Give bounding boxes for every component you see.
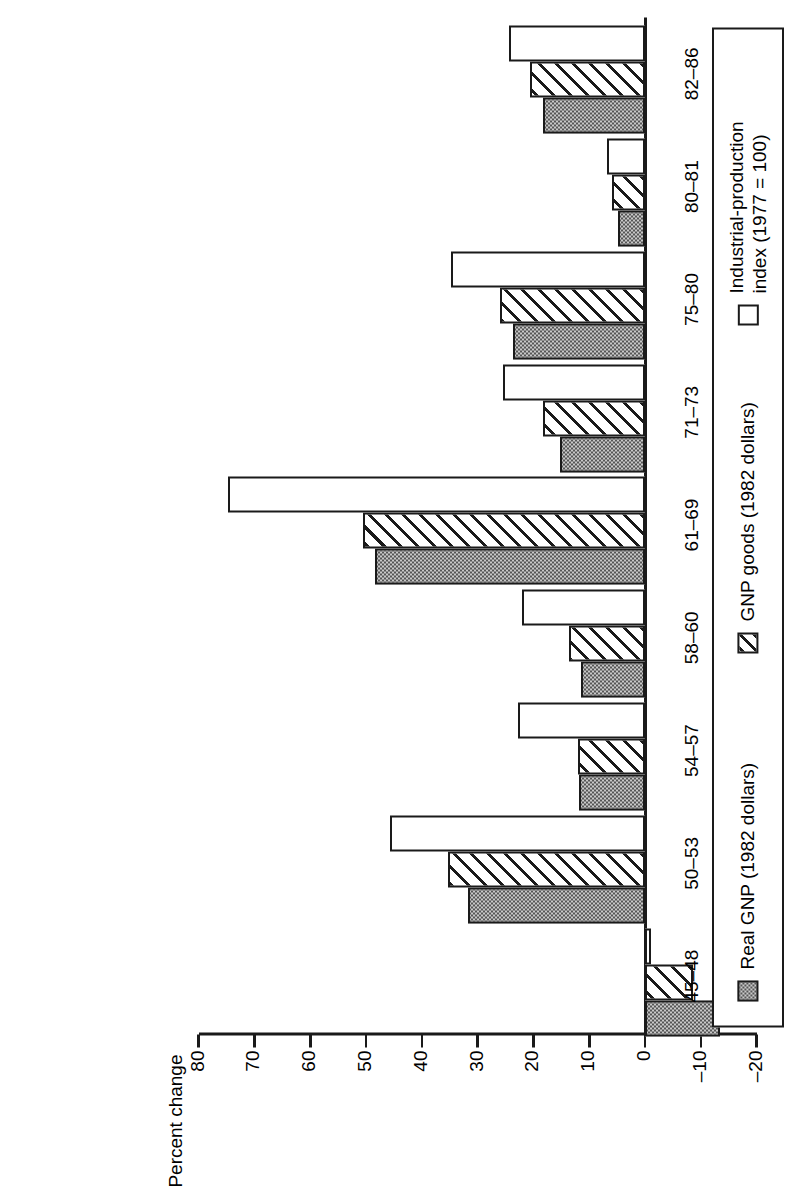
bar-80-81-series-0	[618, 210, 645, 246]
y-axis-tick-label: 10	[577, 1050, 599, 1110]
category-label: 61–69	[681, 498, 703, 551]
bar-82-86-series-2	[509, 25, 645, 61]
category-label: 50–53	[681, 836, 703, 889]
bar-58-60-series-0	[581, 661, 645, 697]
legend-label: Real GNP (1982 dollars)	[736, 762, 759, 969]
bar-58-60-series-2	[522, 589, 645, 625]
category-label: 58–60	[681, 611, 703, 664]
y-axis-tick	[755, 1034, 758, 1047]
legend-swatch-hatched	[737, 632, 758, 653]
bar-61-69-series-0	[375, 549, 645, 585]
y-axis-tick	[532, 1034, 535, 1047]
y-axis-tick-label: 40	[410, 1050, 432, 1110]
bar-61-69-series-1	[363, 513, 645, 549]
bar-71-73-series-2	[503, 364, 645, 400]
bar-50-53-series-0	[468, 887, 645, 923]
y-axis-tick-label: 70	[242, 1050, 264, 1110]
bar-54-57-series-1	[578, 738, 645, 774]
bar-61-69-series-2	[228, 477, 645, 513]
y-axis-tick	[421, 1034, 424, 1047]
legend-label: Industrial-production index (1977 = 100)	[725, 121, 771, 293]
legend-item-0[interactable]: Real GNP (1982 dollars)	[736, 762, 759, 1001]
bar-80-81-series-2	[607, 138, 645, 174]
bar-45-48-series-0	[645, 1000, 720, 1036]
bar-80-81-series-1	[612, 174, 645, 210]
y-axis-tick-label: 20	[521, 1050, 543, 1110]
bar-54-57-series-2	[518, 702, 645, 738]
legend-item-2[interactable]: Industrial-production index (1977 = 100)	[725, 121, 771, 325]
bar-71-73-series-0	[560, 436, 645, 472]
bar-71-73-series-1	[543, 400, 645, 436]
y-axis-tick	[588, 1034, 591, 1047]
y-axis-tick-label: –20	[745, 1050, 767, 1110]
bar-58-60-series-1	[569, 625, 645, 661]
y-axis-tick-label: 60	[298, 1050, 320, 1110]
y-axis-tick-label: –10	[689, 1050, 711, 1110]
y-axis-tick-label: 30	[466, 1050, 488, 1110]
y-axis-tick-label: 80	[187, 1050, 209, 1110]
y-axis-tick-label: 50	[354, 1050, 376, 1110]
category-label: 75–80	[681, 273, 703, 326]
bar-82-86-series-0	[543, 97, 645, 133]
y-axis-tick	[365, 1034, 368, 1047]
category-label: 54–57	[681, 724, 703, 777]
y-axis-tick-label: 0	[633, 1050, 655, 1110]
legend-swatch-dotted	[737, 980, 758, 1001]
bar-75-80-series-2	[451, 251, 645, 287]
y-axis-tick	[476, 1034, 479, 1047]
bar-75-80-series-0	[513, 323, 645, 359]
category-label: 82–86	[681, 47, 703, 100]
legend-swatch-white	[738, 304, 759, 325]
bar-45-48-series-2	[645, 928, 651, 964]
bar-54-57-series-0	[579, 774, 645, 810]
category-label: 45–48	[681, 949, 703, 1002]
bar-75-80-series-1	[500, 287, 645, 323]
category-label: 80–81	[681, 160, 703, 213]
bar-50-53-series-1	[448, 851, 645, 887]
bar-82-86-series-1	[530, 61, 645, 97]
y-axis-tick	[197, 1034, 200, 1047]
category-label: 71–73	[681, 385, 703, 438]
legend: Real GNP (1982 dollars)GNP goods (1982 d…	[712, 27, 784, 1027]
y-axis-tick	[253, 1034, 256, 1047]
legend-item-1[interactable]: GNP goods (1982 dollars)	[736, 402, 759, 653]
legend-label: GNP goods (1982 dollars)	[736, 402, 759, 621]
bar-50-53-series-2	[390, 815, 645, 851]
y-axis-title: Percent change	[165, 1054, 187, 1187]
y-axis-tick	[309, 1034, 312, 1047]
